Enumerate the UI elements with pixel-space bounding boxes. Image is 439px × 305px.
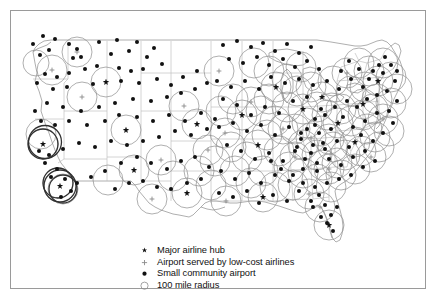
legend-item-major-hub: Major airline hub — [139, 245, 369, 257]
legend-label-low-cost: Airport served by low-cost airlines — [157, 257, 294, 269]
map-legend: Major airline hub Airport served by low-… — [139, 245, 369, 293]
legend-item-small-community: Small community airport — [139, 268, 369, 280]
major-hub-star-dot-icon — [139, 245, 155, 257]
legend-label-radius: 100 mile radius — [157, 280, 219, 292]
radius-open-circle-icon — [139, 280, 155, 292]
us-coastline — [33, 40, 403, 242]
legend-label-major-hub: Major airline hub — [157, 245, 225, 257]
airport-coverage-figure: Major airline hub Airport served by low-… — [0, 0, 439, 305]
figure-frame: Major airline hub Airport served by low-… — [10, 10, 426, 289]
legend-item-low-cost: Airport served by low-cost airlines — [139, 257, 369, 269]
small-community-dot-icon — [139, 268, 155, 280]
low-cost-cross-icon — [139, 257, 155, 269]
legend-item-radius: 100 mile radius — [139, 280, 369, 292]
legend-label-small-community: Small community airport — [157, 268, 256, 280]
